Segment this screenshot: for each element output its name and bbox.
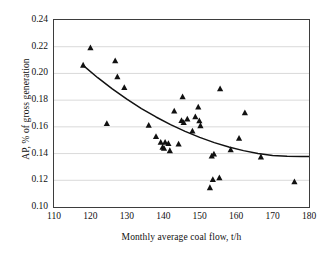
x-tick-label: 150 [183, 211, 217, 221]
x-tick-label: 140 [146, 211, 180, 221]
scatter-chart: AP, % of gross generation 0.100.120.140.… [0, 0, 328, 253]
x-axis-tick-labels: 110120130140150160170180 [0, 0, 328, 253]
x-tick-label: 180 [292, 211, 326, 221]
x-tick-label: 170 [256, 211, 290, 221]
x-tick-label: 130 [110, 211, 144, 221]
x-tick-label: 110 [37, 211, 71, 221]
x-axis-title: Monthly average coal flow, t/h [53, 232, 310, 242]
x-tick-label: 160 [219, 211, 253, 221]
x-tick-label: 120 [73, 211, 107, 221]
